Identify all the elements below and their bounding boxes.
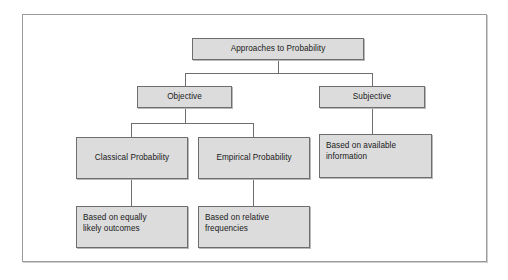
connector-root-stem [278,60,279,73]
node-based-on-equally-likely-outcomes[interactable]: Based on equally likely outcomes [76,206,188,248]
node-objective[interactable]: Objective [137,86,232,108]
node-label: Based on relative frequencies [205,213,309,234]
node-based-on-available-information[interactable]: Based on available information [319,134,432,178]
node-label: Based on equally likely outcomes [83,213,187,234]
node-subjective[interactable]: Subjective [319,86,425,108]
connector-objective-stem [185,108,186,123]
node-label: Empirical Probability [216,153,291,164]
node-label: Approaches to Probability [231,44,326,55]
node-approaches-to-probability[interactable]: Approaches to Probability [192,38,364,60]
connector-to-empirical [253,123,254,137]
connector-objective-bar [131,123,254,124]
connector-to-subjective [372,73,373,86]
connector-root-bar [185,73,373,74]
node-label: Based on available information [326,141,431,162]
connector-to-available-information [372,108,373,134]
connector-to-objective [185,73,186,86]
node-label: Classical Probability [95,153,169,164]
node-label: Objective [167,92,202,103]
node-label: Subjective [353,92,391,103]
diagram-frame: Approaches to Probability Objective Subj… [22,14,487,262]
node-empirical-probability[interactable]: Empirical Probability [198,137,310,179]
node-classical-probability[interactable]: Classical Probability [76,137,188,179]
connector-to-classical [131,123,132,137]
connector-to-equally-likely [131,179,132,206]
node-based-on-relative-frequencies[interactable]: Based on relative frequencies [198,206,310,248]
diagram-canvas: Approaches to Probability Objective Subj… [0,0,508,280]
connector-to-relative-frequencies [253,179,254,206]
